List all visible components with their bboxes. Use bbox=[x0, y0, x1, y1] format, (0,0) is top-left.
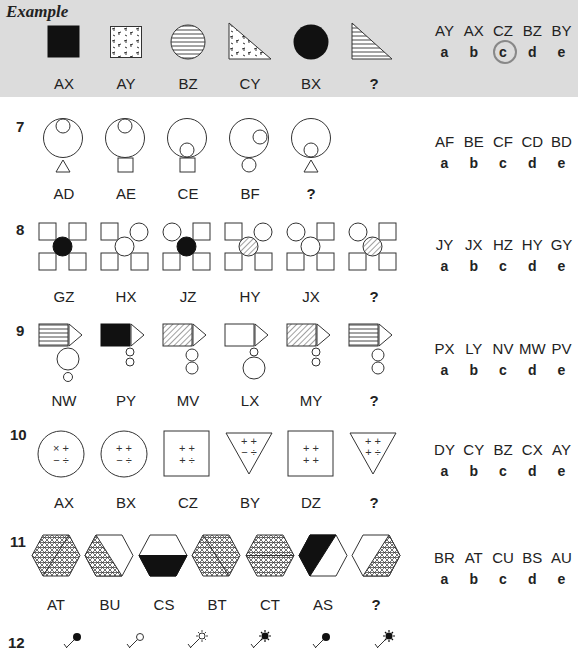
q7-figure-5 bbox=[290, 117, 334, 175]
option-code: BD bbox=[547, 133, 576, 150]
option-code: BE bbox=[459, 133, 488, 150]
question-number: 8 bbox=[16, 221, 24, 238]
svg-text:+ ÷: + ÷ bbox=[365, 446, 381, 458]
q8-question-mark: ? bbox=[349, 288, 399, 305]
option-letter-c[interactable]: c bbox=[489, 155, 518, 171]
option-letter-d[interactable]: d bbox=[518, 155, 547, 171]
option-code: BZ bbox=[518, 22, 547, 39]
q7-option-letters: a b c d e bbox=[430, 155, 576, 171]
option-letter-a[interactable]: a bbox=[430, 155, 459, 171]
q11-figure-1-hexagon bbox=[32, 535, 82, 577]
example-figure-striped-triangle bbox=[351, 22, 393, 60]
example-question-mark: ? bbox=[349, 75, 399, 92]
option-letter-a[interactable]: a bbox=[430, 571, 459, 587]
option-letter-a[interactable]: a bbox=[430, 362, 459, 378]
option-code: AF bbox=[430, 133, 459, 150]
q11-figure-5-hexagon bbox=[246, 535, 296, 577]
option-code: JY bbox=[430, 236, 459, 253]
option-letter-c[interactable]: c bbox=[489, 362, 518, 378]
q8-label: HY bbox=[225, 288, 275, 305]
option-letter-b[interactable]: b bbox=[459, 155, 488, 171]
q9-figure-3 bbox=[162, 323, 214, 385]
q11-label: CT bbox=[245, 596, 295, 613]
q11-figure-3-hexagon bbox=[139, 535, 189, 577]
q11-figure-6-hexagon bbox=[299, 535, 349, 577]
q10-label: AX bbox=[39, 494, 89, 511]
option-code: CU bbox=[489, 549, 518, 566]
option-letter-e[interactable]: e bbox=[547, 463, 576, 479]
q11-label: AT bbox=[31, 596, 81, 613]
q7-label: AD bbox=[39, 185, 89, 202]
option-code: GY bbox=[547, 236, 576, 253]
q10-label: BY bbox=[225, 494, 275, 511]
q11-option-codes: BR AT CU BS AU bbox=[430, 549, 576, 566]
option-letter-c[interactable]: c bbox=[489, 571, 518, 587]
option-code: AT bbox=[459, 549, 488, 566]
q11-label: BT bbox=[192, 596, 242, 613]
option-letter-b[interactable]: b bbox=[459, 571, 488, 587]
option-code: PV bbox=[547, 340, 576, 357]
svg-text:+ +: + + bbox=[303, 442, 319, 454]
option-code: BY bbox=[547, 22, 576, 39]
option-code: AY bbox=[547, 441, 576, 458]
option-letter-d[interactable]: d bbox=[518, 44, 547, 60]
option-code: CZ bbox=[489, 22, 518, 39]
option-letter-e[interactable]: e bbox=[547, 258, 576, 274]
q9-option-letters: a b c d e bbox=[430, 362, 576, 378]
q7-option-codes: AF BE CF CD BD bbox=[430, 133, 576, 150]
option-code: LY bbox=[459, 340, 488, 357]
q7-figure-1 bbox=[42, 117, 86, 175]
q10-question-mark: ? bbox=[349, 494, 399, 511]
option-letter-b[interactable]: b bbox=[459, 463, 488, 479]
option-code: CY bbox=[459, 441, 488, 458]
example-label: AX bbox=[39, 75, 89, 92]
option-letter-d[interactable]: d bbox=[518, 258, 547, 274]
q7-question-mark: ? bbox=[286, 185, 336, 202]
example-figure-speckled-square bbox=[110, 26, 142, 58]
q9-label: LX bbox=[225, 392, 275, 409]
example-title: Example bbox=[6, 2, 68, 22]
q9-figure-2 bbox=[100, 323, 152, 385]
q8-option-codes: JY JX HZ HY GY bbox=[430, 236, 576, 253]
option-letter-c[interactable]: c bbox=[489, 463, 518, 479]
q8-label: JX bbox=[286, 288, 336, 305]
option-code: AU bbox=[547, 549, 576, 566]
option-letter-a[interactable]: a bbox=[430, 463, 459, 479]
q11-figure-7-hexagon bbox=[352, 535, 402, 577]
q11-label: AS bbox=[298, 596, 348, 613]
q10-label: BX bbox=[101, 494, 151, 511]
option-code: JX bbox=[459, 236, 488, 253]
q7-label: CE bbox=[163, 185, 213, 202]
option-letter-c[interactable]: c bbox=[489, 258, 518, 274]
option-letter-b[interactable]: b bbox=[459, 362, 488, 378]
q8-label: GZ bbox=[39, 288, 89, 305]
option-letter-e[interactable]: e bbox=[547, 155, 576, 171]
option-letter-a[interactable]: a bbox=[430, 258, 459, 274]
option-letter-c-selected[interactable]: c bbox=[489, 44, 518, 60]
q8-figure-4 bbox=[224, 222, 276, 274]
option-letter-b[interactable]: b bbox=[459, 258, 488, 274]
option-code: AX bbox=[459, 22, 488, 39]
option-letter-b[interactable]: b bbox=[459, 44, 488, 60]
option-code: HY bbox=[518, 236, 547, 253]
q8-figure-5 bbox=[286, 222, 338, 274]
option-code: CX bbox=[518, 441, 547, 458]
option-letter-e[interactable]: e bbox=[547, 362, 576, 378]
q9-figure-4 bbox=[224, 323, 276, 385]
q10-option-codes: DY CY BZ CX AY bbox=[430, 441, 576, 458]
option-code: NV bbox=[489, 340, 518, 357]
q12-figure-2-stick-white-dot bbox=[127, 632, 147, 648]
q8-label: HX bbox=[101, 288, 151, 305]
q12-figure-1-stick-black-dot bbox=[64, 632, 84, 648]
option-letter-a[interactable]: a bbox=[430, 44, 459, 60]
option-letter-d[interactable]: d bbox=[518, 571, 547, 587]
q10-figure-5-square: + + + + bbox=[287, 430, 337, 480]
option-code: CD bbox=[518, 133, 547, 150]
example-label: AY bbox=[101, 75, 151, 92]
option-letter-e[interactable]: e bbox=[547, 44, 576, 60]
q12-figure-4-stick-black-star bbox=[251, 630, 273, 648]
option-code: DY bbox=[430, 441, 459, 458]
option-letter-d[interactable]: d bbox=[518, 362, 547, 378]
option-letter-d[interactable]: d bbox=[518, 463, 547, 479]
option-letter-e[interactable]: e bbox=[547, 571, 576, 587]
